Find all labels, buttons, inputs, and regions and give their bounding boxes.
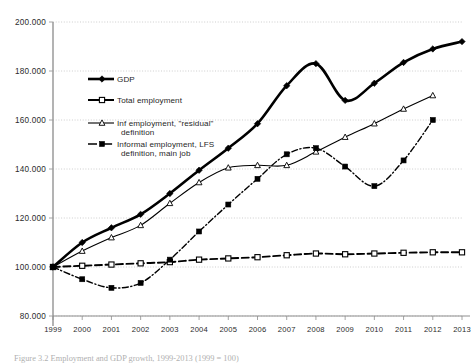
y-axis-tick-label: 200.000	[15, 18, 46, 27]
open-square-marker	[343, 252, 348, 257]
filled-square-marker	[197, 229, 202, 234]
filled-square-marker	[430, 118, 435, 123]
legend-label: GDP	[117, 75, 135, 84]
open-square-marker	[138, 261, 143, 266]
x-axis-tick-label: 2010	[366, 325, 384, 334]
x-axis-tick-label: 2011	[395, 325, 412, 334]
y-axis-tick-label: 160.000	[15, 116, 46, 125]
y-axis-tick-label: 120.000	[15, 214, 46, 223]
x-axis-tick-label: 2000	[73, 325, 91, 334]
y-axis-tick-label: 140.000	[15, 165, 46, 174]
x-axis-labels-group: 1999200020012002200320042005200620072008…	[44, 325, 471, 334]
open-square-marker	[109, 262, 114, 267]
x-axis-tick-label: 2008	[307, 325, 325, 334]
legend-label-line2: definition, main job	[121, 149, 191, 158]
y-axis-tick-label: 100.000	[15, 263, 46, 272]
open-square-marker	[80, 263, 85, 268]
legend-label: Total employment	[117, 96, 183, 105]
x-axis-tick-label: 2005	[219, 325, 237, 334]
filled-square-marker	[51, 265, 56, 270]
x-axis-tick-label: 2007	[278, 325, 296, 334]
y-axis-tick-label: 180.000	[15, 67, 46, 76]
open-square-marker	[313, 251, 318, 256]
open-square-marker	[372, 251, 377, 256]
x-axis-tick-label: 2009	[336, 325, 354, 334]
open-square-marker	[284, 253, 289, 258]
x-axis-tick-label: 2012	[424, 325, 442, 334]
open-square-marker	[401, 250, 406, 255]
x-axis-tick-label: 1999	[44, 325, 62, 334]
filled-square-marker	[284, 152, 289, 157]
filled-square-marker	[226, 202, 231, 207]
y-axis-tick-label: 80.000	[20, 312, 46, 321]
legend-label-line2: definition	[121, 128, 154, 137]
filled-square-marker	[80, 277, 85, 282]
filled-square-marker	[100, 142, 105, 147]
legend-label: Informal employment, LFS	[117, 140, 215, 149]
filled-square-marker	[372, 184, 377, 189]
x-axis-tick-label: 2003	[161, 325, 179, 334]
x-axis-tick-label: 2006	[249, 325, 267, 334]
open-square-marker	[99, 97, 104, 102]
x-axis-tick-label: 2004	[190, 325, 208, 334]
filled-square-marker	[138, 280, 143, 285]
x-axis-tick-label: 2001	[103, 325, 121, 334]
open-square-marker	[430, 250, 435, 255]
open-square-marker	[196, 257, 201, 262]
filled-square-marker	[313, 146, 318, 151]
filled-square-marker	[255, 176, 260, 181]
x-axis-tick-label: 2002	[132, 325, 150, 334]
legend-label: Inf employment, "residual"	[117, 119, 214, 128]
filled-square-marker	[401, 158, 406, 163]
filled-square-marker	[109, 285, 114, 290]
x-axis-tick-label: 2013	[453, 325, 471, 334]
open-square-marker	[459, 250, 464, 255]
filled-square-marker	[343, 164, 348, 169]
open-square-marker	[226, 256, 231, 261]
figure-caption: Figure 3.2 Employment and GDP growth, 19…	[14, 354, 239, 363]
open-square-marker	[255, 255, 260, 260]
filled-square-marker	[167, 257, 172, 262]
